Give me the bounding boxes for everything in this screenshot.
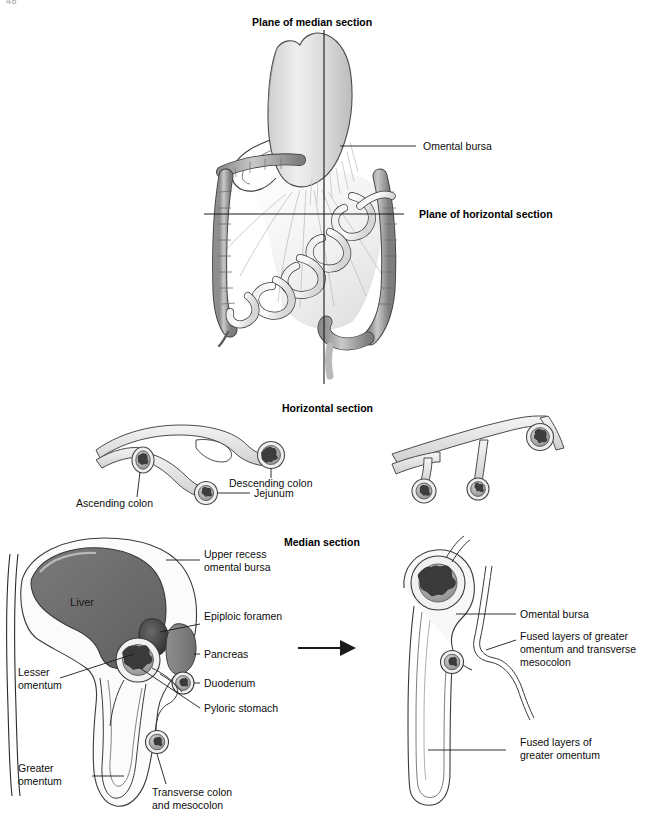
- transverse-colon-fused: [441, 651, 464, 674]
- label-liver: Liver: [70, 596, 94, 608]
- horizontal-figure-svg: Horizontal section: [0, 392, 662, 528]
- duodenum: [172, 672, 194, 694]
- label-fused-greater-line1: Fused layers of: [520, 736, 592, 748]
- leader-transverse-colon: [157, 754, 166, 784]
- label-greater-omentum-line2: omentum: [18, 775, 62, 787]
- label-pancreas: Pancreas: [204, 648, 248, 660]
- label-fused-greater-line2: greater omentum: [520, 749, 600, 761]
- label-greater-omentum-line1: Greater: [18, 762, 54, 774]
- label-transverse-colon-line1: Transverse colon: [152, 786, 232, 798]
- horizontal-section-right-panel: [392, 416, 564, 503]
- right-panel-gut-middle: [467, 478, 489, 500]
- median-section-right-panel: Omental bursa Fused layers of greater om…: [404, 536, 636, 805]
- greater-omentum-fan: [224, 167, 386, 329]
- jejunum-section: [195, 482, 218, 505]
- horizontal-section-left-panel: Ascending colon Jejunum Descending colon: [76, 425, 313, 509]
- page-canvas: 48: [0, 0, 662, 826]
- label-omental-bursa-top: Omental bursa: [423, 140, 492, 152]
- stomach-lumen: [411, 556, 465, 610]
- transverse-colon: [146, 731, 169, 754]
- label-fused-line2: omentum and transverse: [520, 643, 636, 655]
- label-pyloric-stomach: Pyloric stomach: [204, 702, 278, 714]
- label-omental-bursa-right: Omental bursa: [520, 608, 589, 620]
- leader-ascending-colon: [137, 472, 140, 497]
- descending-colon-section: [258, 442, 285, 469]
- right-panel-gut-upper: [527, 424, 554, 451]
- label-fused-line1: Fused layers of greater: [520, 630, 628, 642]
- label-lesser-omentum-line1: Lesser: [18, 666, 50, 678]
- label-lesser-omentum-line2: omentum: [18, 679, 62, 691]
- right-panel-gut-left: [412, 479, 436, 503]
- figure-median-section: Median section Liver: [0, 528, 662, 826]
- title-median-section: Median section: [284, 536, 360, 548]
- median-section-left-panel: Liver: [7, 538, 283, 811]
- figure-abdominal-overview: Plane of median section Plane of horizon…: [0, 0, 662, 392]
- label-ascending-colon: Ascending colon: [76, 497, 153, 509]
- label-upper-recess-line2: omental bursa: [204, 561, 271, 573]
- median-figure-svg: Median section Liver: [0, 528, 662, 826]
- label-fused-line3: mesocolon: [520, 656, 571, 668]
- pancreas: [166, 624, 196, 674]
- label-epiploic-foramen: Epiploic foramen: [204, 610, 282, 622]
- top-figure-svg: Plane of median section Plane of horizon…: [0, 0, 662, 392]
- label-transverse-colon-line2: and mesocolon: [152, 799, 223, 811]
- transformation-arrow: [298, 640, 356, 656]
- leader-fused-greater-transverse: [486, 640, 516, 650]
- label-upper-recess-line1: Upper recess: [204, 548, 266, 560]
- figure-horizontal-section: Horizontal section: [0, 392, 662, 528]
- anterior-wall-outer: [7, 554, 12, 796]
- label-plane-median: Plane of median section: [252, 16, 372, 28]
- title-horizontal-section: Horizontal section: [282, 402, 373, 414]
- pyloric-stomach: [116, 638, 160, 682]
- ascending-colon-section: [132, 447, 154, 473]
- label-descending-colon: Descending colon: [229, 477, 313, 489]
- label-duodenum: Duodenum: [204, 677, 256, 689]
- label-plane-horizontal: Plane of horizontal section: [419, 208, 553, 220]
